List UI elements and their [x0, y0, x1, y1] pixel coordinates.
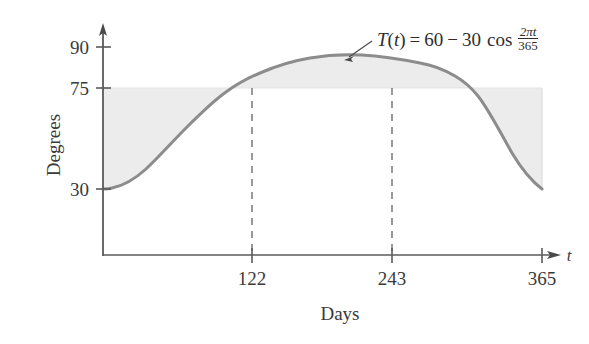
x-tick-label-365: 365	[528, 268, 557, 289]
equation-amplitude-30: 30	[462, 29, 481, 51]
equation-paren-close: )	[399, 29, 405, 51]
x-tick-label-243: 243	[378, 268, 407, 289]
equation-equals-sign: =	[410, 29, 421, 51]
x-axis-variable-label: t	[567, 246, 573, 265]
y-tick-label-30: 30	[70, 179, 89, 200]
x-tick-label-122: 122	[238, 268, 267, 289]
y-tick-label-75: 75	[70, 78, 89, 99]
equation-function-name: T	[377, 29, 388, 51]
temperature-cosine-chart: 90 75 30 122 243 365 t Days Degrees T(t)…	[0, 0, 589, 344]
shaded-region	[103, 55, 542, 189]
y-tick-label-90: 90	[70, 37, 89, 58]
equation-cos-operator: cos	[487, 29, 512, 51]
equation-fraction: 2πt 365	[516, 25, 540, 53]
equation-fraction-numerator: 2πt	[518, 25, 539, 39]
x-axis-title: Days	[320, 303, 359, 324]
equation-constant-60: 60	[424, 29, 443, 51]
equation-fraction-denominator: 365	[516, 39, 540, 52]
y-axis-title: Degrees	[43, 114, 64, 176]
equation-label: T(t) = 60 − 30 cos 2πt 365	[377, 26, 540, 54]
equation-minus-sign: −	[447, 29, 458, 51]
